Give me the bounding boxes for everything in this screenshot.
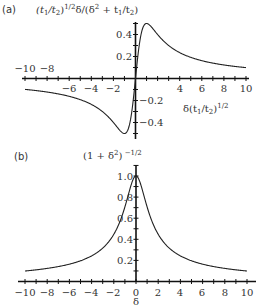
panel-b-label: (b) (14, 151, 28, 162)
chart-b-x-ticks (25, 279, 247, 284)
x-tick-label: −4 (84, 287, 99, 298)
x-tick-label: 4 (177, 83, 183, 94)
chart-a: (a) (t1/t2)1/2δ/(δ2 + t1/t2) −10−8−6−4−2… (2, 3, 252, 139)
chart-b-title: (1 + δ2) −1/2 (83, 149, 142, 161)
x-tick-label: 4 (177, 287, 183, 298)
x-tick-label: −10 (14, 63, 35, 74)
x-tick-label: 2 (155, 287, 161, 298)
y-tick-label: −0.4 (139, 117, 163, 128)
x-tick-label: −2 (106, 287, 121, 298)
y-tick-label: 0.2 (117, 255, 133, 266)
y-tick-label: 1.0 (117, 171, 133, 182)
x-tick-label: 8 (221, 83, 227, 94)
x-tick-label: −6 (62, 287, 77, 298)
chart-b-x-label: δ (133, 296, 139, 307)
y-tick-label: −0.2 (139, 95, 163, 106)
x-tick-label: −10 (14, 287, 35, 298)
y-tick-label: 0.8 (117, 192, 133, 203)
x-tick-label: 10 (241, 287, 254, 298)
panel-a-label: (a) (2, 4, 16, 15)
figure: (a) (t1/t2)1/2δ/(δ2 + t1/t2) −10−8−6−4−2… (0, 0, 266, 308)
x-tick-label: −4 (84, 83, 99, 94)
chart-a-title: (t1/t2)1/2δ/(δ2 + t1/t2) (36, 3, 138, 17)
x-tick-label: 8 (222, 287, 228, 298)
x-tick-label: −6 (62, 83, 77, 94)
y-tick-label: 0.4 (117, 234, 133, 245)
x-tick-label: 6 (199, 287, 205, 298)
y-tick-label: 0.2 (116, 51, 132, 62)
x-tick-label: 10 (240, 83, 253, 94)
x-tick-label: −8 (40, 63, 55, 74)
x-tick-label: −2 (106, 83, 121, 94)
chart-a-x-label: δ(t1/t2)1/2 (183, 102, 228, 116)
chart-b: (b) (1 + δ2) −1/2 −10−8−6−4−20246810 1.0… (14, 149, 256, 307)
x-tick-label: 6 (199, 83, 205, 94)
x-tick-label: −8 (40, 287, 55, 298)
y-tick-label: 0.4 (116, 29, 132, 40)
